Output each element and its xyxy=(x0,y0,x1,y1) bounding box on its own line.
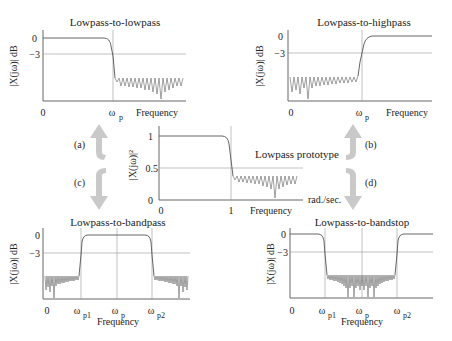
ytick-0: 0 xyxy=(148,195,153,206)
xtick-omega: ω xyxy=(356,107,363,118)
xtick-sub-p1: p1 xyxy=(83,311,91,320)
xtick-omega-p: ω xyxy=(112,305,119,316)
arrow-up-icon xyxy=(90,124,108,160)
xtick-0: 0 xyxy=(289,107,294,118)
xtick-omega-p1: ω xyxy=(74,305,81,316)
xtick-sub-p: p xyxy=(365,113,369,122)
xtick-sub-p1: p1 xyxy=(328,311,336,320)
x-axis-label: Frequency xyxy=(250,205,292,216)
panel-title: Lowpass-to-bandstop xyxy=(315,216,410,228)
x-axis-label: Frequency xyxy=(341,316,383,327)
y-axis-label: |X(jω)|² xyxy=(127,150,139,180)
panel-lowpass-to-bandpass: Lowpass-to-bandpass 0 −3 |X(jω)| dB 0 ω … xyxy=(8,216,190,327)
ytick-0: 0 xyxy=(35,230,40,241)
arrow-a: (a) xyxy=(74,124,108,160)
x-axis-label: Frequency xyxy=(136,107,178,118)
ytick-0: 0 xyxy=(281,229,286,240)
ytick-0: 0 xyxy=(278,31,283,42)
arrow-d: (d) xyxy=(344,168,377,210)
xtick-0: 0 xyxy=(45,305,50,316)
ytick-0-5: 0.5 xyxy=(146,163,159,174)
ytick-minus3: −3 xyxy=(277,247,288,258)
ytick-minus3: −3 xyxy=(29,248,40,259)
xtick-0: 0 xyxy=(159,205,164,216)
panel-title: Lowpass-to-highpass xyxy=(317,16,411,28)
frequency-unit: rad./sec. xyxy=(308,194,341,205)
arrow-down-icon xyxy=(344,168,362,210)
xtick-omega-p1: ω xyxy=(319,305,326,316)
xtick-1: 1 xyxy=(229,205,234,216)
xtick-sub-p2: p2 xyxy=(157,311,165,320)
arrow-up-icon xyxy=(344,124,362,160)
xtick-sub-p2: p2 xyxy=(403,311,411,320)
filter-transformation-diagram: Lowpass-to-lowpass 0 −3 |X(jω)| dB 0 ω p… xyxy=(0,0,452,341)
xtick-0: 0 xyxy=(41,107,46,118)
arrow-label-b: (b) xyxy=(365,139,377,151)
arrow-down-icon xyxy=(90,168,108,210)
arrow-c: (c) xyxy=(74,168,108,210)
arrow-label-c: (c) xyxy=(74,177,85,189)
xtick-omega-p: ω xyxy=(356,305,363,316)
ytick-0: 0 xyxy=(32,33,37,44)
panel-title: Lowpass-to-lowpass xyxy=(70,16,160,28)
panel-lowpass-prototype: 1 0.5 0 |X(jω)|² 0 1 Frequency rad./sec.… xyxy=(127,126,341,216)
panel-lowpass-to-lowpass: Lowpass-to-lowpass 0 −3 |X(jω)| dB 0 ω p… xyxy=(8,16,186,122)
ytick-minus3: −3 xyxy=(274,48,285,59)
x-axis-label: Frequency xyxy=(97,316,139,327)
panel-lowpass-to-bandstop: Lowpass-to-bandstop 0 −3 |X(jω)| dB 0 ω … xyxy=(265,216,433,327)
xtick-omega-p2: ω xyxy=(394,305,401,316)
panel-title: Lowpass-to-bandpass xyxy=(70,216,165,228)
xtick-omega-p2: ω xyxy=(148,305,155,316)
xtick-0: 0 xyxy=(290,305,295,316)
arrow-b: (b) xyxy=(344,124,377,160)
y-axis-label: |X(jω)| dB xyxy=(8,45,20,87)
y-axis-label: |X(jω)| dB xyxy=(254,45,266,87)
y-axis-label: |X(jω)| dB xyxy=(265,243,277,285)
panel-lowpass-to-highpass: Lowpass-to-highpass 0 −3 |X(jω)| dB 0 ω … xyxy=(254,16,432,122)
y-axis-label: |X(jω)| dB xyxy=(8,243,20,285)
ytick-1: 1 xyxy=(148,131,153,142)
xtick-sub-p: p xyxy=(119,113,123,122)
xtick-omega: ω xyxy=(109,107,116,118)
arrow-label-a: (a) xyxy=(74,139,85,151)
panel-title: Lowpass prototype xyxy=(255,148,339,160)
ytick-minus3: −3 xyxy=(29,49,40,60)
arrow-label-d: (d) xyxy=(365,177,377,189)
x-axis-label: Frequency xyxy=(386,107,428,118)
